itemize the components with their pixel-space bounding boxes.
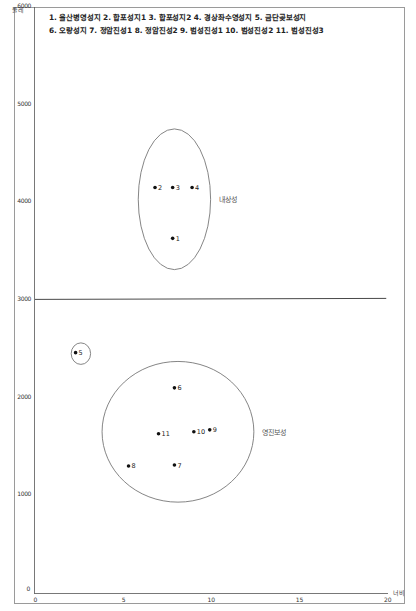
point-label: 11 bbox=[162, 430, 170, 438]
group-circle bbox=[102, 361, 254, 502]
data-points: 1234567891011 bbox=[74, 184, 217, 470]
data-point bbox=[173, 386, 177, 390]
data-point bbox=[208, 428, 212, 432]
data-point bbox=[157, 432, 161, 436]
data-point bbox=[153, 186, 157, 190]
point-label: 3 bbox=[176, 184, 180, 192]
group-label: 내상성 bbox=[219, 195, 237, 204]
group-label: 영진보성 bbox=[262, 428, 286, 437]
point-label: 4 bbox=[195, 184, 199, 192]
reference-line-3000 bbox=[35, 298, 386, 299]
point-label: 1 bbox=[176, 235, 180, 243]
data-point bbox=[127, 464, 131, 468]
point-label: 9 bbox=[213, 426, 217, 434]
point-label: 10 bbox=[197, 428, 205, 436]
data-point bbox=[74, 351, 78, 355]
data-point bbox=[171, 237, 175, 241]
point-label: 7 bbox=[177, 462, 181, 470]
data-point bbox=[171, 186, 175, 190]
reference-line bbox=[35, 298, 386, 299]
data-point bbox=[192, 430, 196, 434]
group-circle bbox=[138, 129, 210, 270]
data-point bbox=[190, 186, 194, 190]
point-label: 5 bbox=[79, 349, 83, 357]
scatter-plot: 내상성영진보성 1234567891011 bbox=[0, 0, 416, 611]
point-label: 6 bbox=[177, 384, 181, 392]
point-label: 2 bbox=[158, 184, 162, 192]
data-point bbox=[173, 463, 177, 467]
point-label: 8 bbox=[132, 462, 136, 470]
